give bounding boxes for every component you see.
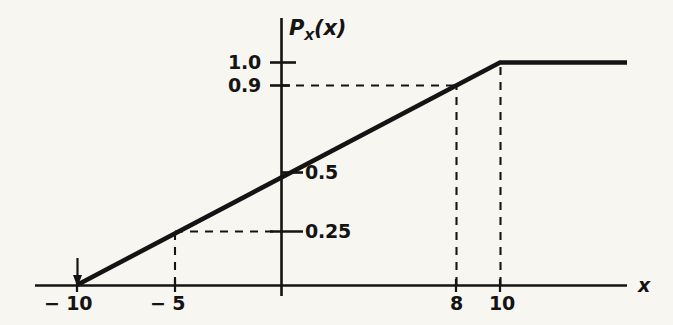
x-tick-label-8: 8: [450, 294, 463, 313]
y-tick-label-0.25: 0.25: [305, 222, 351, 241]
y-axis-label-argument: (x): [314, 16, 346, 40]
cdf-curve: [77, 63, 627, 286]
x-tick-label-10: 10: [489, 294, 515, 313]
y-tick-label-0.9: 0.9: [228, 76, 261, 95]
y-tick-label-1.0: 1.0: [228, 53, 261, 72]
y-axis-label-p: P: [289, 16, 304, 40]
x-tick-label-minus5: − 5: [150, 294, 185, 313]
y-tick-label-0.5: 0.5: [305, 163, 338, 182]
y-axis-label: PX(x): [289, 18, 346, 42]
x-tick-label-minus10: − 10: [44, 294, 92, 313]
x-axis-label: x: [638, 276, 650, 295]
y-axis-label-subscript: X: [304, 28, 314, 43]
figure-canvas: PX(x) 1.0 0.9 0.5 0.25 − 10 − 5 8 10 x: [0, 0, 673, 325]
